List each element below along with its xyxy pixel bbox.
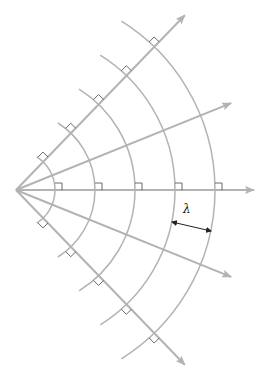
right-angle-marker — [215, 183, 222, 190]
right-angle-marker — [121, 66, 131, 71]
right-angle-marker — [38, 152, 48, 157]
right-angle-marker — [95, 183, 102, 190]
right-angle-marker — [66, 252, 76, 257]
right-angle-marker — [135, 183, 142, 190]
ray-arrow — [16, 190, 185, 365]
right-angle-marker — [66, 123, 76, 128]
right-angle-marker — [121, 309, 131, 314]
right-angle-marker — [149, 37, 159, 42]
wavelength-dimension-arrow — [172, 222, 211, 231]
right-angle-marker — [94, 280, 104, 285]
right-angle-marker — [55, 183, 62, 190]
right-angle-marker — [94, 95, 104, 100]
ray-arrow — [16, 15, 185, 190]
ray-arrow — [16, 103, 231, 190]
right-angle-marker — [38, 223, 48, 228]
ray-arrow — [16, 190, 231, 277]
right-angle-marker — [175, 183, 182, 190]
wavefront-diagram — [0, 0, 259, 376]
wavelength-label: λ — [183, 202, 191, 216]
right-angle-marker — [149, 338, 159, 343]
